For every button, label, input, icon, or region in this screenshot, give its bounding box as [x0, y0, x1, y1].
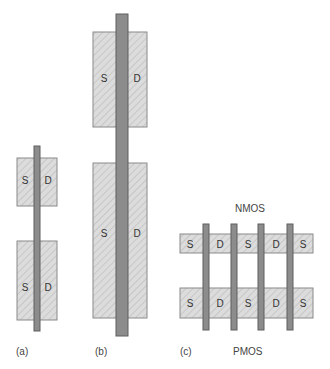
gate-b: [116, 14, 128, 336]
source-label: S: [101, 228, 108, 239]
drain-label: D: [133, 228, 140, 239]
gate-c-4: [287, 224, 293, 330]
drain-label: D: [216, 298, 223, 309]
gate-c-3: [258, 224, 264, 330]
caption-b: (b): [95, 346, 107, 357]
source-label: S: [187, 298, 194, 309]
drain-label: D: [216, 239, 223, 250]
caption-c: (c): [180, 346, 192, 357]
source-label: S: [101, 73, 108, 84]
nmos-label: NMOS: [235, 203, 265, 214]
drain-label: D: [272, 298, 279, 309]
drain-label: D: [272, 239, 279, 250]
source-label: S: [245, 298, 252, 309]
panel-b: [93, 14, 147, 336]
source-label: S: [187, 239, 194, 250]
source-label: S: [22, 175, 29, 186]
source-label: S: [22, 282, 29, 293]
source-label: S: [300, 239, 307, 250]
drain-label: D: [133, 73, 140, 84]
source-label: S: [300, 298, 307, 309]
pmos-label: PMOS: [233, 346, 262, 357]
gate-a: [34, 146, 40, 331]
gate-c-1: [203, 224, 209, 330]
source-label: S: [245, 239, 252, 250]
drain-label: D: [44, 175, 51, 186]
caption-a: (a): [16, 346, 28, 357]
drain-label: D: [44, 282, 51, 293]
gate-c-2: [231, 224, 237, 330]
